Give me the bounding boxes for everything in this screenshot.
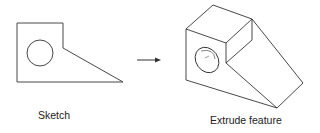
solid-slope-top-edge — [252, 19, 303, 83]
solid-bottom-edge — [186, 80, 277, 108]
solid-hole-inner-arc — [201, 50, 215, 59]
extrude-feature-caption: Extrude feature — [210, 114, 282, 126]
solid-slope-right-edge — [277, 83, 303, 108]
solid-top-face — [186, 5, 252, 43]
sketch-outline — [17, 23, 123, 82]
solid-hole-ellipse — [190, 43, 224, 78]
solid-slope-inner-edge — [226, 63, 277, 108]
solid-hole-axis-mark — [205, 56, 209, 58]
sketch-profile — [17, 23, 123, 82]
sketch-hole-circle — [27, 40, 53, 66]
extruded-solid — [186, 5, 303, 108]
solid-step-edge — [226, 40, 252, 63]
right-arrow-icon — [137, 58, 161, 63]
sketch-caption: Sketch — [38, 109, 70, 121]
